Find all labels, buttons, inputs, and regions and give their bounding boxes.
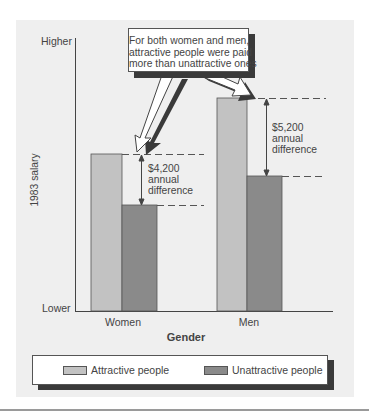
annotation-line-1: For both women and men,	[129, 35, 248, 47]
x-tick-women: Women	[105, 316, 141, 328]
x-tick-men: Men	[239, 316, 260, 328]
women-diff-line2: annual	[148, 174, 179, 185]
annotation-line-2: attractive people were paid	[129, 47, 248, 59]
y-tick-higher: Higher	[41, 35, 72, 47]
bar-men-unattractive	[247, 176, 282, 311]
annotation-line-3: more than unattractive ones	[129, 58, 248, 70]
legend: Attractive people Unattractive people	[32, 355, 328, 385]
legend-item-attractive: Attractive people	[63, 364, 169, 376]
x-axis-label: Gender	[167, 331, 206, 343]
women-diff-amount: $4,200	[148, 163, 180, 174]
legend-swatch-attractive	[63, 366, 87, 375]
legend-label-attractive: Attractive people	[91, 364, 169, 376]
men-diff-amount: $5,200	[272, 122, 304, 133]
callout-arrow-right	[190, 70, 256, 101]
legend-item-unattractive: Unattractive people	[204, 364, 322, 376]
y-axis-label: 1983 salary	[29, 153, 40, 207]
legend-swatch-unattractive	[204, 366, 228, 375]
legend-label-unattractive: Unattractive people	[232, 364, 322, 376]
callout-arrow-left	[135, 72, 188, 155]
bar-women-attractive	[91, 154, 122, 311]
annotation-callout: For both women and men, attractive peopl…	[128, 28, 249, 72]
men-diff-line3: difference	[272, 144, 317, 155]
y-tick-lower: Lower	[42, 302, 71, 314]
bar-men-attractive	[217, 98, 247, 311]
bar-women-unattractive	[122, 205, 157, 311]
men-diff-line2: annual	[272, 133, 303, 144]
women-diff-line3: difference	[148, 185, 193, 196]
